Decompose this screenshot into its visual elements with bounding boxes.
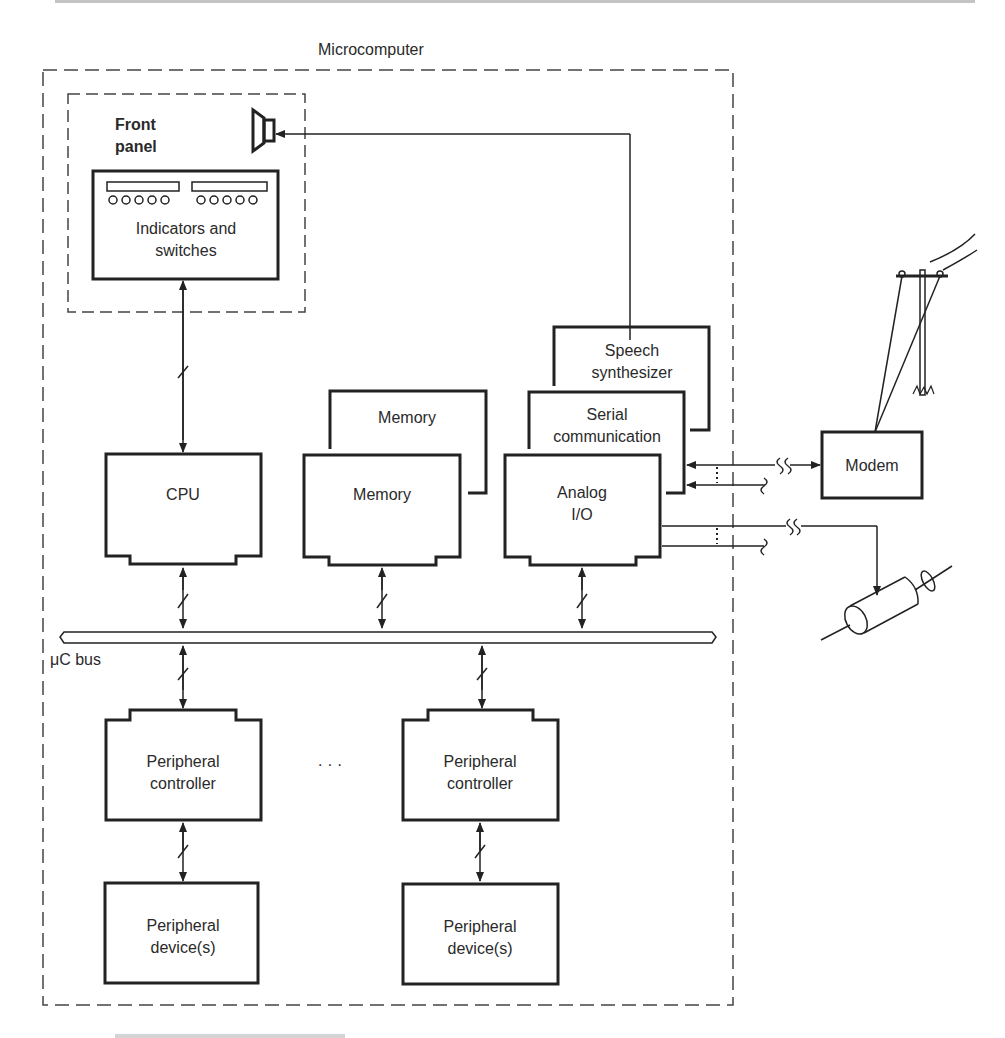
speech-label-1: Speech [605,342,659,359]
bus-label: μC bus [50,651,101,668]
telephone-pole-icon [875,234,977,432]
controller-1-label-2: controller [150,775,216,792]
indicators-switches-block: Indicators and switches [93,171,278,279]
serial-label-1: Serial [587,406,628,423]
peripheral-device-1: Peripheral device(s) [105,883,258,983]
indicators-label-1: Indicators and [136,220,237,237]
analog-label-1: Analog [557,484,607,501]
peripheral-controller-1: Peripheral controller [106,710,261,820]
bus-connectors [178,568,587,628]
microcomputer-label: Microcomputer [318,41,424,58]
analog-io-block: Analog I/O [505,455,660,565]
cpu-label: CPU [166,486,200,503]
cpu-block: CPU [106,454,261,564]
front-panel-label-1: Front [115,116,157,133]
analog-label-2: I/O [571,506,592,523]
modem-label: Modem [845,457,898,474]
speaker-icon [253,110,274,151]
device-2-label-2: device(s) [448,940,513,957]
modem-block: Modem [822,432,922,498]
uc-bus: μC bus [50,632,716,668]
speech-label-2: synthesizer [592,364,674,381]
memory-front-label: Memory [353,486,411,503]
peripheral-device-2: Peripheral device(s) [403,884,558,984]
peripheral-controller-2: Peripheral controller [403,710,558,820]
device-2-label-1: Peripheral [444,918,517,935]
motor-icon [821,566,952,640]
front-panel-label-2: panel [115,138,157,155]
controller-2-label-1: Peripheral [444,753,517,770]
memory-block-front: Memory [304,455,460,565]
serial-label-2: communication [553,428,661,445]
device-1-label-1: Peripheral [147,917,220,934]
controller-1-label-1: Peripheral [147,753,220,770]
speech-synthesizer-block: Speech synthesizer [554,327,709,430]
clipped-caption-bottom [115,1034,345,1038]
clipped-page-text-top [55,0,975,3]
device-1-label-2: device(s) [151,939,216,956]
memory-back-label: Memory [378,409,436,426]
more-peripherals-ellipsis: · · · [318,756,343,773]
microcomputer-diagram: Microcomputer Front panel Indicators and… [0,0,1005,1038]
indicators-label-2: switches [155,242,216,259]
controller-2-label-2: controller [447,775,513,792]
